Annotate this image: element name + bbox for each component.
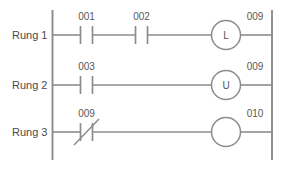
coil-010-output-arc-right	[226, 118, 241, 147]
contact-001[interactable]: 001	[78, 11, 95, 44]
ladder-canvas: Rung 1 001 002 L 00	[0, 0, 285, 169]
ladder-diagram: Rung 1 001 002 L 00	[0, 0, 285, 169]
contact-002-address: 002	[133, 11, 150, 22]
coil-010-output-arc-left	[212, 118, 227, 147]
contact-009-nc-address: 009	[78, 108, 95, 119]
contact-003[interactable]: 003	[78, 61, 95, 94]
contact-009-nc[interactable]: 009	[74, 108, 99, 145]
contact-002[interactable]: 002	[133, 11, 150, 44]
coil-010-output[interactable]: 010	[212, 108, 264, 147]
coil-009-latch-address: 009	[247, 11, 264, 22]
rung-1-label: Rung 1	[12, 29, 47, 41]
coil-009-latch-letter: L	[223, 30, 229, 41]
coil-009-latch[interactable]: L 009	[212, 11, 264, 50]
coil-009-unlatch[interactable]: U 009	[212, 61, 264, 100]
rung-1: Rung 1 001 002 L 00	[12, 11, 272, 50]
coil-009-unlatch-address: 009	[247, 61, 264, 72]
rung-3: Rung 3 009 010	[12, 108, 272, 147]
rung-2-label: Rung 2	[12, 79, 47, 91]
rung-3-label: Rung 3	[12, 126, 47, 138]
coil-010-output-address: 010	[247, 108, 264, 119]
rung-2: Rung 2 003 U 009	[12, 61, 272, 100]
contact-001-address: 001	[78, 11, 95, 22]
coil-009-unlatch-letter: U	[222, 80, 229, 91]
contact-003-address: 003	[78, 61, 95, 72]
